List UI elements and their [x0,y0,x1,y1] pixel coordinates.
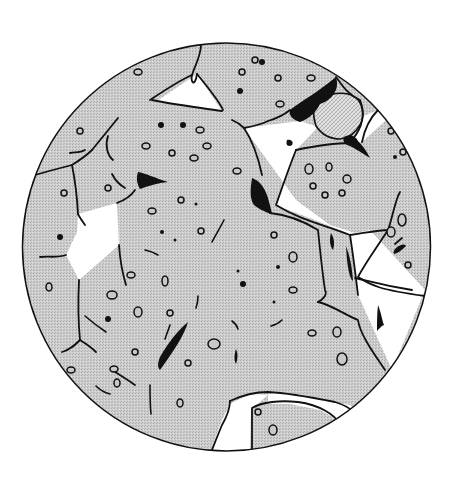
inclusion-dot [276,265,280,269]
inclusion-ring [46,283,52,291]
inclusion-ring [132,349,138,355]
inclusion-ring [339,190,345,196]
inclusion-dot [237,270,240,273]
inclusion-dot [174,239,177,242]
inclusion-ring [271,232,277,238]
inclusion-ring [167,310,173,316]
inclusion-ring [114,379,120,387]
inclusion-dot [195,203,198,206]
inclusion-ring [127,272,135,278]
inclusion-ring [134,69,142,75]
inclusion-ring [169,150,175,156]
inclusion-ring [387,227,395,237]
inclusion-ring [107,291,117,299]
inclusion-ring [405,262,411,268]
inclusion-ring [178,197,184,203]
inclusion-dot [237,88,243,94]
inclusion-dot [180,122,186,128]
inclusion-ring [252,57,258,63]
inclusion-ring [326,163,332,171]
grain-boundary [378,110,415,113]
inclusion-ring [177,399,183,407]
inclusion-ring [276,101,284,107]
inclusion-ring [307,75,315,81]
inclusion-ring [203,143,211,149]
inclusion-ring [333,327,341,337]
void-region [405,112,420,130]
inclusion-ring [322,192,328,198]
micrograph-figure [0,0,459,481]
inclusion-dot [259,59,265,65]
inclusion-ring [305,164,313,174]
inclusion-ring [198,228,204,234]
inclusion-ring [134,307,142,317]
crack-line [60,370,62,382]
inclusion-ring [190,155,198,161]
inclusion-ring [275,75,281,81]
inclusion-ring [289,287,297,293]
inclusion-dot [158,122,164,128]
inclusion-ring [196,127,204,133]
inclusion-ring [343,175,351,183]
inclusion-ring [115,430,123,436]
inclusion-ring [110,366,118,372]
inclusion-ring [269,425,277,435]
inclusion-ring [255,409,261,415]
inclusion-dot [57,234,63,240]
inclusion-ring [337,353,347,365]
inclusion-ring [310,183,316,189]
inclusion-ring [308,330,316,336]
inclusion-ring [77,128,83,134]
inclusion-ring [289,252,297,262]
inclusion-ring [105,185,111,191]
inclusion-ring [148,208,156,214]
inclusion-ring [185,360,191,366]
inclusion-ring [61,190,67,196]
inclusion-ring [208,339,220,349]
inclusion-ring [233,168,241,174]
inclusion-ring [162,276,168,286]
inclusion-dot [105,316,111,322]
inclusion-dot [393,155,397,159]
micrograph-svg [0,0,459,481]
inclusion-dot [240,281,246,287]
inclusion-dot [160,230,164,234]
inclusion-dot [273,301,276,304]
inclusion-ring [67,367,75,373]
inclusion-ring [142,143,150,149]
inclusion-ring [239,69,245,75]
inclusion-ring [398,214,406,226]
